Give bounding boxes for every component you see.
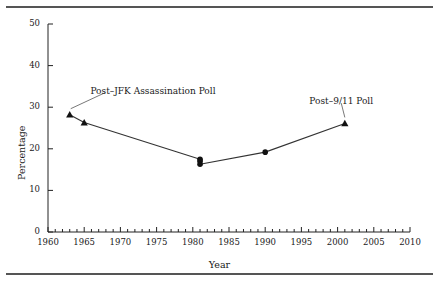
y-tick-label: 40	[14, 60, 40, 70]
data-line	[70, 115, 345, 165]
x-tick-label: 1970	[100, 237, 140, 247]
x-tick-label: 1990	[245, 237, 285, 247]
y-tick-label: 10	[14, 184, 40, 194]
y-tick-label: 20	[14, 143, 40, 153]
x-tick-label: 1975	[137, 237, 177, 247]
y-tick-label: 30	[14, 101, 40, 111]
data-point-marker	[341, 120, 348, 126]
data-point-marker	[81, 119, 88, 125]
y-tick-label: 0	[14, 226, 40, 236]
chart-annotation-label: Post–JFK Assassination Poll	[90, 86, 215, 96]
chart-annotation-label: Post–9/11 Poll	[309, 96, 373, 106]
x-tick-label: 2005	[354, 237, 394, 247]
x-tick-label: 2000	[318, 237, 358, 247]
x-tick-label: 1985	[209, 237, 249, 247]
data-point-marker	[66, 111, 73, 117]
data-point-marker	[197, 161, 203, 167]
y-axis-label: Percentage	[16, 126, 27, 180]
x-tick-label: 1980	[173, 237, 213, 247]
data-point-marker	[262, 149, 268, 155]
figure-container: Percentage Year 196019651970197519801985…	[0, 0, 439, 282]
x-tick-label: 2010	[390, 237, 430, 247]
x-axis-label: Year	[0, 259, 439, 270]
x-tick-label: 1965	[64, 237, 104, 247]
y-tick-label: 50	[14, 18, 40, 28]
x-tick-label: 1995	[281, 237, 321, 247]
x-tick-label: 1960	[28, 237, 68, 247]
